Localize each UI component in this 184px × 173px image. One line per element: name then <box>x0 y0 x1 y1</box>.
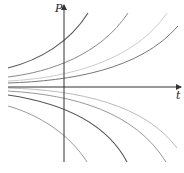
p-axis-label: P <box>55 3 62 14</box>
growth-curve-4 <box>8 26 178 83</box>
decay-curve-3 <box>8 95 127 162</box>
growth-curve-3 <box>8 13 167 81</box>
decay-curve-2 <box>8 91 166 162</box>
growth-curve-1 <box>8 13 88 68</box>
solution-curves-diagram: P t <box>0 0 184 173</box>
diagram-canvas <box>0 0 184 173</box>
t-axis-label: t <box>176 90 180 101</box>
decay-curve-1 <box>8 88 177 148</box>
